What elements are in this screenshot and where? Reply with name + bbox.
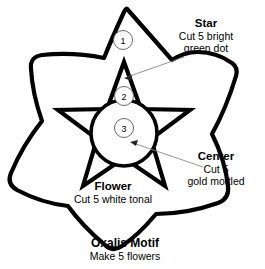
star-label-line2: green dot — [150, 42, 262, 54]
star-label-title: Star — [150, 17, 262, 30]
oxalis-motif-diagram: 1 2 3 Star Cut 5 bright green dot Center… — [0, 0, 265, 269]
callout-3-number: 3 — [121, 124, 126, 134]
callout-1-number: 1 — [120, 36, 125, 46]
callout-1: 1 — [114, 31, 133, 50]
flower-label-title: Flower — [43, 180, 183, 193]
callout-2-number: 2 — [121, 92, 126, 102]
flower-label-line1: Cut 5 white tonal — [43, 193, 183, 205]
center-label-title: Center — [168, 150, 264, 163]
figure-subtitle: Make 5 flowers — [25, 250, 225, 262]
figure-title: Oxalis Motif — [25, 237, 225, 250]
flower-label-block: Flower Cut 5 white tonal — [43, 180, 183, 205]
figure-title-block: Oxalis Motif Make 5 flowers — [25, 237, 225, 262]
star-label-block: Star Cut 5 bright green dot — [150, 17, 262, 54]
center-label-line1: Cut 5 — [168, 163, 264, 175]
callout-2: 2 — [115, 87, 134, 106]
star-label-line1: Cut 5 bright — [150, 30, 262, 42]
callout-3: 3 — [115, 119, 134, 138]
